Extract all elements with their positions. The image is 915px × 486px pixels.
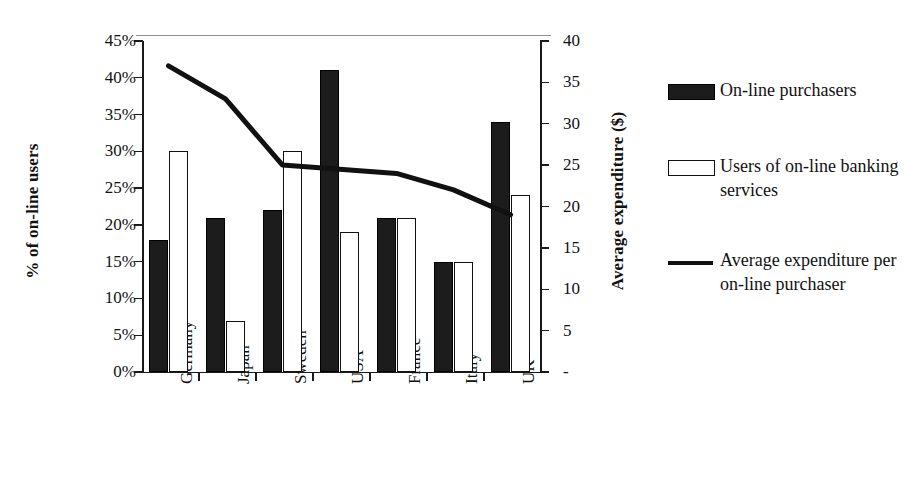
y-axis-right-tick-label: 20 [563,198,580,215]
outlined-white-rect-icon [668,160,715,176]
y-axis-right-tick-label: 35 [563,73,580,90]
y-axis-right-tickmark [540,247,549,248]
y-axis-right-tick-label: 40 [563,32,580,49]
y-axis-left-tick-label: 40% [105,69,136,86]
y-axis-left-tick-label: 30% [105,142,136,159]
legend-label: Users of on-line banking services [720,154,900,202]
x-axis-tickmark [312,372,313,381]
filled-black-rect-icon [668,84,715,100]
x-axis-tickmark [483,372,484,381]
y-axis-left-tick-label: 35% [105,106,136,123]
legend-swatch-wrap [668,78,720,100]
y-axis-left-tick-label: 25% [105,179,136,196]
x-axis-tickmark [369,372,370,381]
y-axis-right-tickmark [540,82,549,83]
legend-swatch-wrap [668,154,720,176]
plot-area [142,41,541,372]
y-axis-right-tick-label: 10 [563,280,580,297]
solid-black-line-icon [668,261,713,265]
line-series-path [169,66,511,215]
y-axis-left-tick-label: 10% [105,289,136,306]
y-axis-right-tick-label: - [563,363,569,380]
y-axis-left-tick-label: 0% [113,363,136,380]
legend-item-on-line-purchasers: On-line purchasers [668,78,908,102]
chart-root: % of on-line users Average expenditure (… [0,0,915,486]
legend-item-users-of-on-line-banking-services: Users of on-line banking services [668,154,908,202]
y-axis-left-tick-label: 15% [105,253,136,270]
y-axis-right-tickmark [540,371,549,372]
y-axis-right-tick-label: 30 [563,115,580,132]
y-axis-right-tick-label: 5 [563,322,572,339]
legend-item-average-expenditure: Average expenditure per on-line purchase… [668,248,908,296]
chart-legend: On-line purchasers Users of on-line bank… [668,78,908,322]
y-axis-right-tickmark [540,123,549,124]
legend-swatch-wrap [668,248,720,265]
x-axis-tickmark [426,372,427,381]
legend-label: On-line purchasers [720,78,856,102]
x-axis-tickmark [255,372,256,381]
y-axis-left-tick-label: 20% [105,216,136,233]
y-axis-right-tickmark [540,289,549,290]
y-axis-left-tick-label: 45% [105,32,136,49]
line-series [142,41,541,372]
y-axis-right-tick-label: 25 [563,156,580,173]
y-axis-right-tickmark [540,330,549,331]
x-axis-tickmark [198,372,199,381]
y-axis-right-tickmark [540,40,549,41]
y-axis-right-tickmark [540,206,549,207]
plot-top-rule [136,35,551,36]
y-axis-right-title: Average expenditure ($) [608,76,628,326]
legend-label: Average expenditure per on-line purchase… [720,248,900,296]
y-axis-left-title: % of on-line users [23,86,43,336]
y-axis-left-tick-label: 5% [113,326,136,343]
y-axis-right-tickmark [540,164,549,165]
y-axis-right-tick-label: 15 [563,239,580,256]
